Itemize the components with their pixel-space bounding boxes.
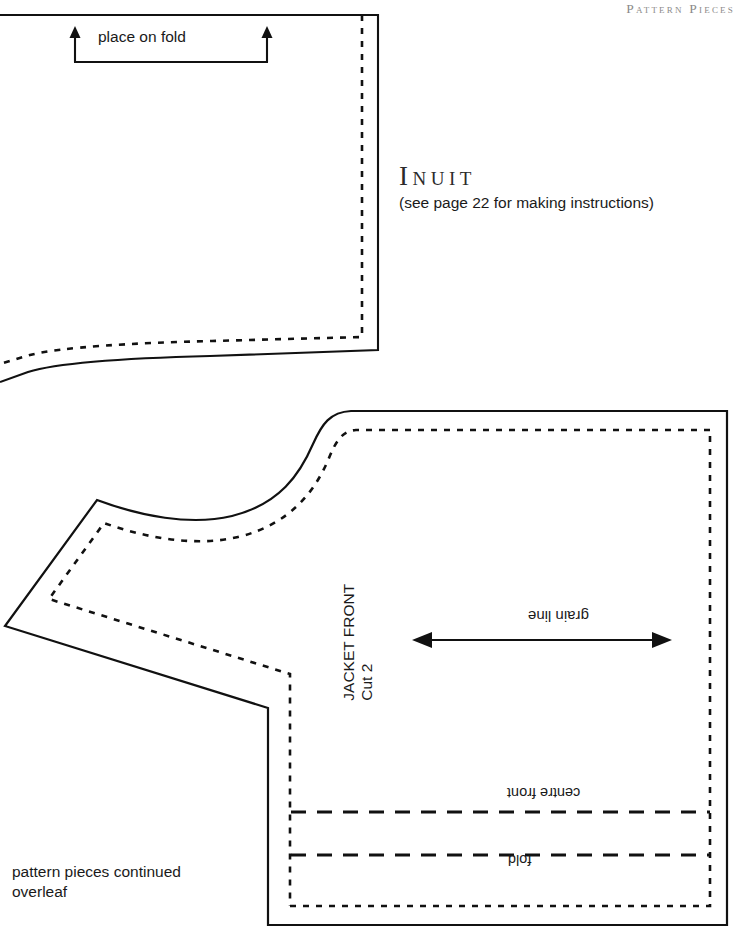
jacket-front-label: JACKET FRONT Cut 2 xyxy=(340,584,377,701)
jacket-front-piece-name: JACKET FRONT xyxy=(340,584,358,701)
footer-note-line-1: pattern pieces continued xyxy=(12,862,272,882)
grain-line-arrowhead-left-icon xyxy=(412,632,432,648)
grain-line-arrow xyxy=(412,632,672,648)
place-on-fold-label: place on fold xyxy=(98,28,186,46)
footer-note: pattern pieces continued overleaf xyxy=(12,862,272,901)
upper-piece-cutting-line xyxy=(0,15,378,382)
place-on-fold-arrow-right-icon xyxy=(262,26,273,38)
jacket-front-seam-line xyxy=(49,430,710,906)
footer-note-line-2: overleaf xyxy=(12,882,272,902)
page-subtitle: (see page 22 for making instructions) xyxy=(399,194,739,212)
upper-piece-seam-line xyxy=(0,15,362,364)
place-on-fold-arrow-left-icon xyxy=(70,26,81,38)
fold-label: fold xyxy=(508,852,531,868)
page-title: Inuit xyxy=(399,162,739,191)
jacket-front-cut-instruction: Cut 2 xyxy=(358,584,376,701)
grain-line-label: grain line xyxy=(528,608,589,625)
pattern-page: Pattern Pieces Inuit (see page 22 for ma… xyxy=(0,0,744,929)
title-block: Inuit (see page 22 for making instructio… xyxy=(399,162,739,212)
grain-line-arrowhead-right-icon xyxy=(652,632,672,648)
running-header: Pattern Pieces xyxy=(626,1,735,17)
pattern-diagram xyxy=(0,0,744,929)
centre-front-label: centre front xyxy=(507,785,580,801)
